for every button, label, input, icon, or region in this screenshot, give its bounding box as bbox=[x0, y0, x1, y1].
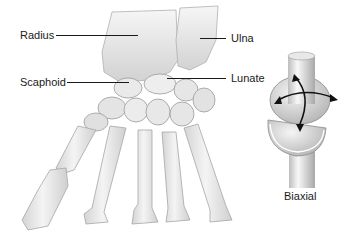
label-radius: Radius bbox=[20, 29, 54, 41]
radius-bone bbox=[102, 10, 178, 82]
biaxial-joint-icon bbox=[268, 52, 330, 188]
lunate-bone bbox=[144, 74, 176, 94]
wrist-joint-diagram: Radius Scaphoid Ulna Lunate Biaxial bbox=[0, 0, 356, 242]
leader-line-lunate bbox=[167, 78, 226, 79]
label-lunate: Lunate bbox=[231, 72, 265, 84]
joint-caption: Biaxial bbox=[284, 190, 316, 202]
label-ulna: Ulna bbox=[231, 32, 254, 44]
scaphoid-bone bbox=[114, 78, 142, 98]
leader-line-scaphoid bbox=[67, 82, 129, 83]
label-scaphoid: Scaphoid bbox=[20, 76, 66, 88]
metacarpal-bones bbox=[22, 124, 232, 230]
leader-line-radius bbox=[56, 35, 138, 36]
leader-line-ulna bbox=[200, 38, 226, 39]
